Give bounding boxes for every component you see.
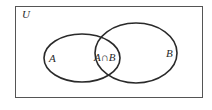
intersection-label: A∩B — [93, 51, 116, 63]
universe-label: U — [22, 8, 31, 20]
venn-diagram: U A B A∩B — [0, 0, 212, 110]
set-b-label: B — [166, 47, 173, 59]
set-a-label: A — [48, 52, 56, 64]
